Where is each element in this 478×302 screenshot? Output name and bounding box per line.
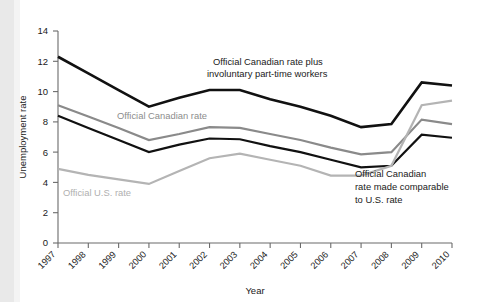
x-tick-label-1999: 1999 — [96, 249, 118, 271]
annotation-comparable-line2: rate made comparable — [355, 181, 449, 192]
line-chart: 0 2 4 6 8 10 12 14 Unemployment rate 199… — [0, 0, 478, 302]
x-tick-label-2006: 2006 — [309, 249, 331, 271]
annotation-comparable-line1: Official Canadian — [355, 168, 426, 179]
y-ticks-group: 0 2 4 6 8 10 12 14 — [37, 25, 58, 248]
annotation-top-line2: involuntary part-time workers — [207, 68, 328, 79]
x-tick-label-2001: 2001 — [157, 249, 179, 271]
annotation-official-canadian-rate: Official Canadian rate — [117, 110, 207, 121]
x-tick-label-2003: 2003 — [218, 249, 240, 271]
x-tick-label-2000: 2000 — [127, 249, 149, 271]
annotation-comparable-line3: to U.S. rate — [355, 194, 402, 205]
annotation-top-line1: Official Canadian rate plus — [213, 56, 323, 67]
x-tick-label-2005: 2005 — [278, 249, 300, 271]
y-tick-label-8: 8 — [43, 116, 48, 127]
x-tick-label-1997: 1997 — [36, 249, 58, 271]
x-axis-title: Year — [245, 285, 264, 296]
x-tick-label-2004: 2004 — [248, 249, 270, 271]
x-tick-label-1998: 1998 — [66, 249, 88, 271]
x-tick-label-2010: 2010 — [430, 249, 452, 271]
x-tick-label-2008: 2008 — [369, 249, 391, 271]
y-axis-title: Unemployment rate — [17, 96, 28, 179]
y-tick-label-0: 0 — [43, 237, 48, 248]
y-tick-label-4: 4 — [43, 177, 48, 188]
y-tick-label-10: 10 — [37, 86, 48, 97]
x-tick-label-2009: 2009 — [400, 249, 422, 271]
annotation-official-us-rate: Official U.S. rate — [63, 187, 131, 198]
y-tick-label-6: 6 — [43, 147, 48, 158]
x-tick-label-2002: 2002 — [187, 249, 209, 271]
x-tick-label-2007: 2007 — [339, 249, 361, 271]
y-tick-label-14: 14 — [37, 25, 48, 36]
annotation-top: Official Canadian rate plus involuntary … — [207, 56, 328, 79]
x-ticks-group: 1997199819992000200120022003200420052006… — [36, 243, 452, 271]
annotation-comparable: Official Canadian rate made comparable t… — [355, 168, 449, 205]
y-tick-label-12: 12 — [37, 56, 48, 67]
y-tick-label-2: 2 — [43, 207, 48, 218]
figure-container: 0 2 4 6 8 10 12 14 Unemployment rate 199… — [0, 0, 478, 302]
